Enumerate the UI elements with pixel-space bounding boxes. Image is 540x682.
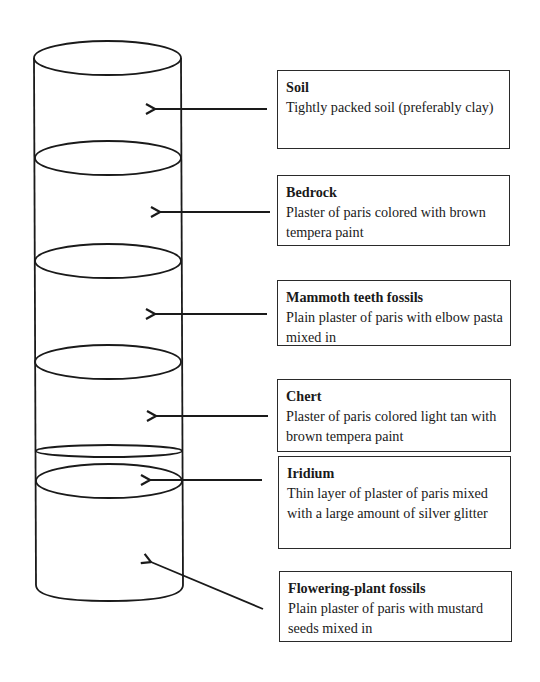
label-description: Tightly packed soil (preferably clay) bbox=[286, 97, 502, 117]
label-iridium: Iridium Thin layer of plaster of paris m… bbox=[278, 456, 511, 549]
label-soil: Soil Tightly packed soil (preferably cla… bbox=[277, 70, 510, 149]
label-title: Chert bbox=[286, 386, 503, 406]
layer-boundary-5 bbox=[36, 464, 182, 498]
label-title: Flowering-plant fossils bbox=[288, 578, 504, 598]
label-title: Iridium bbox=[287, 463, 503, 483]
label-title: Bedrock bbox=[286, 182, 502, 202]
label-description: Thin layer of plaster of paris mixed wit… bbox=[287, 483, 503, 523]
cylinder-right-wall bbox=[181, 58, 183, 585]
label-description: Plaster of paris colored with brown temp… bbox=[286, 202, 502, 242]
label-mammoth-teeth-fossils: Mammoth teeth fossils Plain plaster of p… bbox=[277, 280, 511, 346]
label-description: Plain plaster of paris with elbow pasta … bbox=[286, 307, 503, 347]
label-description: Plain plaster of paris with mustard seed… bbox=[288, 598, 504, 638]
arrow-flowering bbox=[151, 562, 263, 609]
cylinder-top bbox=[34, 41, 181, 75]
label-flowering-plant-fossils: Flowering-plant fossils Plain plaster of… bbox=[279, 571, 512, 642]
label-bedrock: Bedrock Plaster of paris colored with br… bbox=[277, 175, 510, 246]
layer-boundary-2 bbox=[35, 244, 181, 278]
label-title: Soil bbox=[286, 77, 502, 97]
layer-boundary-1 bbox=[35, 141, 181, 175]
label-title: Mammoth teeth fossils bbox=[286, 287, 503, 307]
cylinder-left-wall bbox=[34, 58, 36, 585]
label-chert: Chert Plaster of paris colored light tan… bbox=[277, 379, 511, 452]
cylinder-bottom bbox=[36, 585, 183, 601]
layer-boundary-3 bbox=[35, 345, 181, 379]
label-description: Plaster of paris colored light tan with … bbox=[286, 406, 503, 446]
layer-boundary-4 bbox=[36, 445, 182, 457]
